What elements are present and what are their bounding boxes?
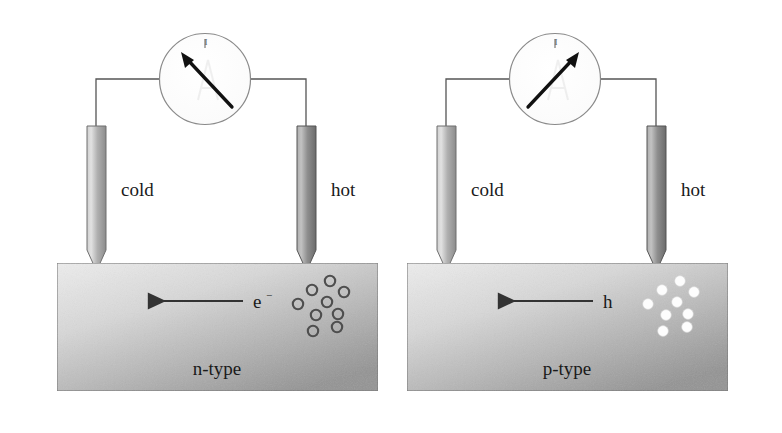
cold-probe-body-n	[87, 126, 106, 271]
carrier-marker	[682, 322, 693, 333]
cold-label-n: cold	[121, 179, 154, 200]
cold-probe-body-p	[437, 126, 456, 271]
carrier-marker	[661, 310, 672, 321]
current-meter-n: I	[160, 34, 251, 125]
carrier-symbol-p: h	[603, 291, 613, 312]
semiconductor-type-label-n: n-type	[193, 358, 242, 379]
seebeck-effect-figure: I cold hot	[0, 0, 782, 433]
carrier-symbol-text-p: h	[603, 291, 613, 312]
hot-label-p: hot	[681, 179, 706, 200]
hot-label-n: hot	[331, 179, 356, 200]
hot-probe-body-n	[297, 126, 316, 271]
carrier-marker	[675, 276, 686, 287]
meter-label-n: I	[205, 37, 208, 47]
hot-probe-n	[297, 126, 316, 271]
cold-probe-p	[437, 126, 456, 271]
carrier-symbol-text-n: e	[253, 291, 261, 312]
current-meter-p: I	[510, 34, 601, 125]
figure-canvas: I cold hot	[0, 0, 782, 433]
hot-probe-p	[647, 126, 666, 271]
hot-probe-body-p	[647, 126, 666, 271]
carrier-marker	[683, 309, 694, 320]
meter-label-p: I	[555, 37, 558, 47]
semiconductor-type-label-p: p-type	[543, 358, 592, 379]
cold-probe-n	[87, 126, 106, 271]
carrier-marker	[672, 297, 683, 308]
cold-label-p: cold	[471, 179, 504, 200]
carrier-superscript-n: −	[266, 289, 272, 301]
carrier-marker	[689, 287, 700, 298]
carrier-marker	[643, 299, 654, 310]
carrier-marker	[658, 326, 669, 337]
carrier-marker	[657, 285, 668, 296]
